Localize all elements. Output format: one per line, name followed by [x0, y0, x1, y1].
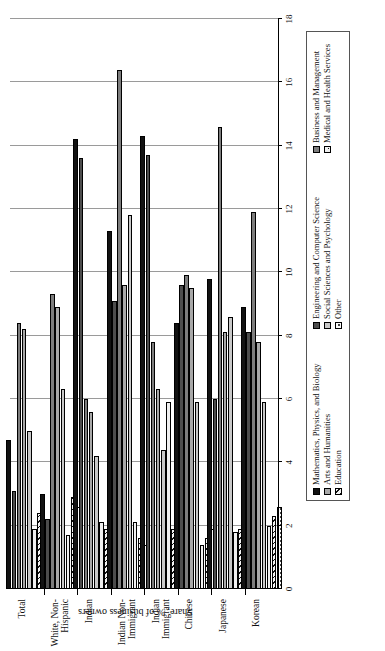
axis-tick-label: 18 [284, 7, 294, 31]
legend-row: Arts and Humanities Social Sciences and … [322, 37, 333, 495]
bar [228, 317, 233, 589]
bar [122, 285, 127, 589]
bar [256, 342, 261, 589]
legend-swatch-icon [313, 322, 320, 329]
bar [94, 456, 99, 589]
bar [27, 431, 32, 589]
axis-tick [278, 81, 282, 82]
category-separator [144, 589, 145, 595]
axis-tick-label: 6 [284, 387, 294, 411]
legend-swatch-icon [335, 322, 342, 329]
bar [272, 516, 277, 589]
value-axis-line [278, 19, 279, 589]
legend-item-arts-humanities: Arts and Humanities [322, 335, 333, 495]
gridline [10, 18, 278, 19]
category-label: Japanese [218, 595, 228, 651]
bar [22, 329, 27, 589]
bar [174, 323, 179, 589]
bar [151, 342, 156, 589]
bar [241, 307, 246, 589]
axis-tick-label: 0 [284, 577, 294, 601]
legend-label: Mathematics, Physics, and Biology [311, 364, 322, 486]
bar [40, 494, 45, 589]
bar [84, 399, 89, 589]
category-separator [77, 589, 78, 595]
bar [117, 70, 122, 589]
bar [112, 301, 117, 589]
bar [6, 440, 11, 589]
legend-swatch-icon [313, 146, 320, 153]
legend-swatch-icon [324, 322, 331, 329]
bar [99, 523, 104, 590]
plot-area [10, 19, 278, 589]
bar [17, 323, 22, 589]
category-label: Indian [84, 595, 94, 651]
axis-tick-label: 4 [284, 450, 294, 474]
legend-item-business-management: Business and Management [311, 51, 322, 153]
bar [146, 155, 151, 589]
bar [55, 307, 60, 589]
bar [223, 333, 228, 590]
legend-item-education: Education [333, 335, 344, 495]
chart-figure: Share, % of business owners 024681012141… [0, 0, 385, 651]
legend-item-engineering-computer-science: Engineering and Computer Science [311, 159, 322, 329]
category-separator [44, 589, 45, 595]
bar [207, 279, 212, 589]
legend-label: Medical and Health Services [322, 44, 333, 143]
plot-area-wrapper: Share, % of business owners 024681012141… [0, 0, 385, 651]
axis-tick [278, 18, 282, 19]
category-label: Indian Non-Immigrant [117, 595, 137, 651]
bar [128, 215, 133, 589]
axis-tick [278, 461, 282, 462]
rotated-chart-canvas: Share, % of business owners 024681012141… [0, 0, 385, 651]
bar [107, 231, 112, 589]
bar [262, 402, 267, 589]
bar [189, 288, 194, 589]
legend-item-mathematics-physics-biology: Mathematics, Physics, and Biology [311, 335, 322, 495]
axis-tick-label: 2 [284, 514, 294, 538]
category-label: Total [17, 595, 27, 651]
legend-label: Education [333, 450, 344, 485]
legend-row: Mathematics, Physics, and Biology Engine… [311, 37, 322, 495]
bar [133, 523, 138, 590]
bar [73, 139, 78, 589]
axis-tick-label: 14 [284, 134, 294, 158]
bar [32, 529, 37, 589]
axis-tick [278, 525, 282, 526]
bar [218, 127, 223, 589]
bar [213, 399, 218, 589]
bar [184, 276, 189, 590]
bar [140, 136, 145, 589]
axis-tick [278, 398, 282, 399]
legend-row: Education Other [333, 37, 344, 495]
legend-item-other: Other [333, 159, 344, 329]
legend-label: Engineering and Computer Science [311, 197, 322, 319]
legend-swatch-icon [313, 488, 320, 495]
bar [267, 526, 272, 589]
category-separator [111, 589, 112, 595]
bar [246, 333, 251, 590]
legend-label: Arts and Humanities [322, 414, 333, 485]
bar [251, 212, 256, 589]
bar [12, 491, 17, 589]
bar [45, 519, 50, 589]
category-separator [211, 589, 212, 595]
axis-tick [278, 588, 282, 589]
category-label: Indian Immigrant [151, 595, 171, 651]
axis-tick [278, 145, 282, 146]
legend-item-medical-health-services: Medical and Health Services [322, 44, 333, 153]
bar [61, 390, 66, 590]
category-label: Chinese [184, 595, 194, 651]
legend-swatch-icon [324, 488, 331, 495]
axis-tick-label: 8 [284, 324, 294, 348]
category-label: Korean [251, 595, 261, 651]
bar [161, 450, 166, 589]
bar [166, 402, 171, 589]
bar [50, 295, 55, 590]
bar [156, 390, 161, 590]
bar [89, 412, 94, 589]
legend-label: Business and Management [311, 51, 322, 143]
legend-label: Social Sciences and Psychology [322, 208, 333, 319]
legend-item-social-sciences-psychology: Social Sciences and Psychology [322, 159, 333, 329]
bar [233, 532, 238, 589]
